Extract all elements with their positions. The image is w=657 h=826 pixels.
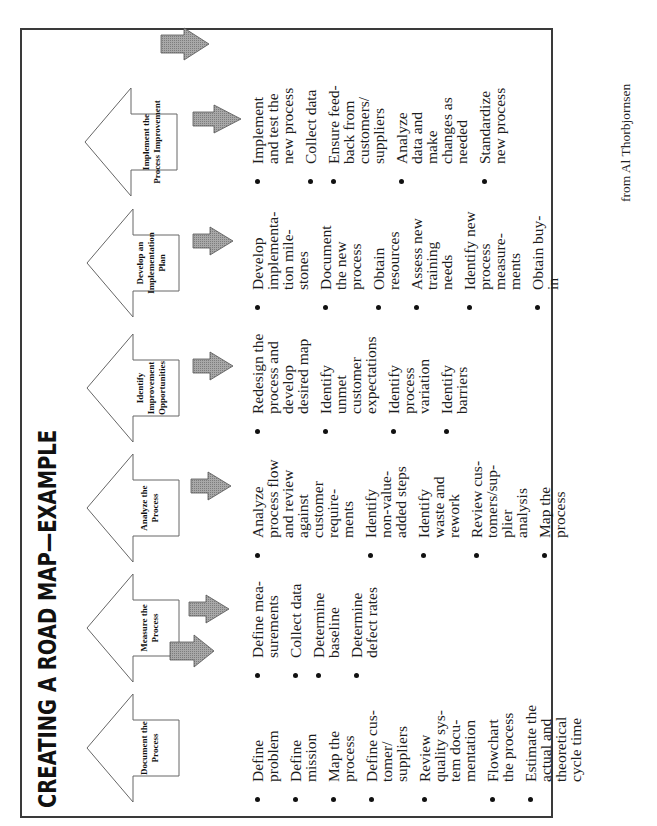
list-item: Map the process — [326, 692, 356, 802]
road-map-page: CREATING A ROAD MAP—EXAMPLE Document the… — [0, 0, 657, 826]
list-item: Define problem — [250, 692, 280, 802]
bullet-icon — [323, 429, 328, 434]
list-item: Assess new training needs — [409, 192, 454, 310]
bullet-icon — [376, 305, 381, 310]
list-item: Collect data — [303, 44, 318, 184]
bullet-icon — [308, 179, 313, 184]
bullet-icon — [542, 553, 547, 558]
step-column-develop: Develop implementa- tion mile- stones Do… — [250, 192, 568, 310]
list-item: Collect data — [288, 566, 303, 678]
list-item: Identify barriers — [439, 316, 469, 434]
bullet-icon — [331, 179, 336, 184]
bullet-list: Implement and test the new process Colle… — [250, 44, 507, 184]
bullet-icon — [293, 797, 298, 802]
page-title: CREATING A ROAD MAP—EXAMPLE — [33, 430, 62, 808]
attribution-caption: from Al Thorbjornsen — [618, 84, 634, 202]
flow-arrow-down-icon — [192, 104, 242, 134]
list-item: Standardize new process — [477, 44, 507, 184]
list-item: Map the process — [537, 442, 567, 558]
list-item: Identify non-value- added steps — [363, 442, 408, 558]
list-item: Identify waste and rework — [416, 442, 461, 558]
bullet-list: Develop implementa- tion mile- stones Do… — [250, 192, 560, 310]
step-column-identify: Redesign the process and develop desired… — [250, 316, 477, 434]
list-item: Define mea- surements — [250, 566, 280, 678]
up-arrow-icon — [85, 692, 181, 804]
bullet-icon — [255, 179, 260, 184]
bullet-icon — [255, 429, 260, 434]
flow-arrow-down-icon — [188, 594, 230, 624]
list-item: Flowchart the process — [485, 692, 515, 802]
bullet-icon — [399, 179, 404, 184]
bullet-icon — [323, 305, 328, 310]
list-item: Define cus- tomer/ suppliers — [364, 692, 409, 802]
bullet-icon — [255, 553, 260, 558]
list-item: Document the new process — [318, 192, 363, 310]
bullet-icon — [391, 429, 396, 434]
list-item: Redesign the process and develop desired… — [250, 316, 310, 434]
list-item: Obtain buy- in — [530, 192, 560, 310]
list-item: Review cus- tomers/sup- plier analysis — [469, 442, 529, 558]
bullet-icon — [368, 553, 373, 558]
step-arrow-document: Document the Process — [85, 692, 181, 804]
bullet-icon — [293, 673, 298, 678]
step-label-identify: Identify Improvement Opportunities — [135, 332, 168, 444]
step-arrow-implement: Implement the Process Improvement — [83, 86, 179, 198]
bullet-list: Redesign the process and develop desired… — [250, 316, 469, 434]
list-item: Define mission — [288, 692, 318, 802]
list-item: Analyze data and make changes as needed — [394, 44, 469, 184]
bullet-icon — [528, 797, 533, 802]
bullet-icon — [255, 673, 260, 678]
list-item: Identify unmet customer expectations — [318, 316, 378, 434]
list-item: Review quality sys- tem docu- mentation — [417, 692, 477, 802]
step-label-measure: Measure the Process — [139, 572, 161, 684]
list-item: Obtain resources — [371, 192, 401, 310]
bullet-icon — [255, 797, 260, 802]
step-column-measure: Define mea- surements Collect data Deter… — [250, 566, 387, 678]
step-arrow-identify: Identify Improvement Opportunities — [85, 332, 181, 444]
bullet-icon — [474, 553, 479, 558]
step-column-analyze: Analyze process flow and review against … — [250, 442, 575, 558]
step-label-analyze: Analyze the Process — [139, 452, 161, 564]
bullet-icon — [422, 797, 427, 802]
list-item: Determine defect rates — [349, 566, 379, 678]
list-item: Implement and test the new process — [250, 44, 295, 184]
bullet-icon — [444, 429, 449, 434]
flow-arrow-down-icon — [192, 351, 234, 381]
bullet-list: Define mea- surements Collect data Deter… — [250, 566, 379, 678]
bullet-icon — [421, 553, 426, 558]
bullet-icon — [255, 305, 260, 310]
up-arrow-icon — [85, 452, 181, 564]
bullet-icon — [331, 797, 336, 802]
list-item: Estimate the actual and theoretical cycl… — [523, 692, 583, 802]
flow-arrow-right-icon — [160, 27, 210, 61]
step-arrow-develop: Develop an Implementation Plan — [85, 207, 181, 319]
list-item: Analyze process flow and review against … — [250, 442, 355, 558]
list-item: Identify process variation — [386, 316, 431, 434]
step-column-implement: Implement and test the new process Colle… — [250, 44, 515, 184]
step-arrow-measure: Measure the Process — [85, 572, 181, 684]
list-item: Determine baseline — [311, 566, 341, 678]
bullet-list: Analyze process flow and review against … — [250, 442, 567, 558]
bullet-icon — [467, 305, 472, 310]
step-label-implement: Implement the Process Improvement — [141, 86, 163, 198]
step-arrow-analyze: Analyze the Process — [85, 452, 181, 564]
step-label-document: Document the Process — [139, 692, 161, 804]
flow-arrow-down-icon — [192, 226, 234, 256]
bullet-list: Define problem Define mission Map the pr… — [250, 692, 583, 802]
list-item: Develop implementa- tion mile- stones — [250, 192, 310, 310]
bullet-icon — [414, 305, 419, 310]
list-item: Ensure feed- back from customers/ suppli… — [326, 44, 386, 184]
flow-arrow-left-icon — [168, 634, 216, 668]
list-item: Identify new process measure- ments — [462, 192, 522, 310]
step-column-document: Define problem Define mission Map the pr… — [250, 692, 591, 802]
bullet-icon — [535, 305, 540, 310]
bullet-icon — [369, 797, 374, 802]
flow-arrow-down-icon — [190, 471, 232, 501]
up-arrow-icon — [85, 572, 181, 684]
step-label-develop: Develop an Implementation Plan — [135, 207, 168, 319]
up-arrow-icon — [83, 86, 179, 198]
bullet-icon — [482, 179, 487, 184]
bullet-icon — [316, 673, 321, 678]
bullet-icon — [354, 673, 359, 678]
bullet-icon — [490, 797, 495, 802]
